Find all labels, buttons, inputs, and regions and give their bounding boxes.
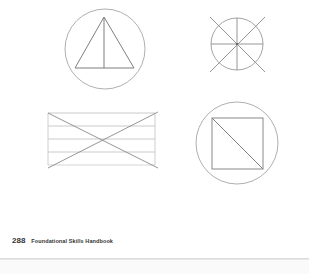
circle-with-triangle-figure (65, 9, 145, 89)
circle-with-spokes-figure (210, 17, 265, 72)
page-footer: 288 Foundational Skills Handbook (12, 236, 113, 245)
handbook-page: 288 Foundational Skills Handbook (0, 0, 309, 259)
rectangle-with-lines-figure (48, 112, 158, 168)
book-title: Foundational Skills Handbook (31, 238, 113, 244)
circle-with-square-figure (196, 102, 278, 184)
drawing-practice-figures (0, 0, 309, 230)
page-number: 288 (12, 236, 25, 245)
below-page-area (0, 260, 309, 274)
